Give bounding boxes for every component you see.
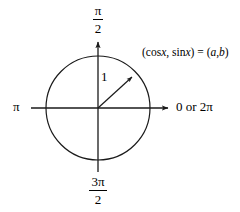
point-coordinates-label: (cosx, sinx) = (a,b) — [142, 47, 229, 59]
comma-sin-text: , sin — [166, 46, 185, 58]
axis-label-pi: π — [13, 100, 20, 113]
unit-circle-figure: π 2 3π 2 π 0 or 2π 1 (cosx, sinx) = (a,b… — [0, 0, 240, 212]
fraction-pi-over-2: π 2 — [93, 4, 104, 35]
axis-label-pi-over-2: π 2 — [80, 4, 116, 36]
fraction-3pi-over-2: 3π 2 — [89, 175, 106, 206]
closing-paren: ) — [225, 46, 229, 58]
equals-open-text: ) = ( — [191, 46, 211, 58]
cos-text: (cos — [142, 46, 161, 58]
fraction-denominator: 2 — [89, 192, 106, 207]
axis-label-3pi-over-2: 3π 2 — [80, 175, 116, 207]
radius-length-label: 1 — [101, 70, 108, 83]
fraction-denominator: 2 — [93, 21, 104, 36]
axis-label-zero-or-two-pi: 0 or 2π — [176, 100, 213, 113]
fraction-numerator: 3π — [89, 175, 106, 190]
fraction-bar — [93, 19, 104, 20]
fraction-numerator: π — [93, 4, 104, 19]
fraction-bar — [89, 190, 106, 191]
